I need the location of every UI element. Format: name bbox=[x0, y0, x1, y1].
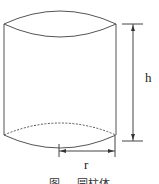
cylinder-diagram bbox=[0, 0, 159, 184]
radius-label: r bbox=[84, 157, 88, 173]
bottom-ellipse-lower-arc bbox=[4, 135, 116, 148]
top-ellipse-upper-arc bbox=[4, 11, 116, 24]
bottom-ellipse-upper-arc bbox=[4, 123, 116, 135]
radius-arrow-left-icon bbox=[60, 149, 66, 153]
height-label: h bbox=[145, 70, 152, 86]
height-arrow-down-icon bbox=[131, 134, 135, 140]
figure-caption: 图 … 圆柱体 bbox=[0, 178, 159, 184]
radius-arrow-right-icon bbox=[108, 149, 114, 153]
top-ellipse-lower-arc bbox=[4, 24, 116, 37]
height-arrow-up-icon bbox=[131, 25, 135, 31]
